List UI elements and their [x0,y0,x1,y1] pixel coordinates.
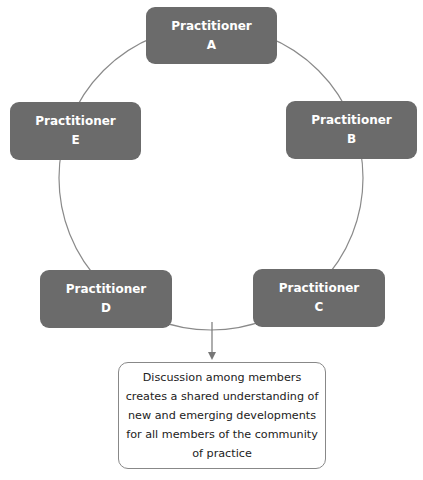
arrow-head-icon [208,352,216,360]
node-letter: C [315,298,324,317]
node-title: Practitioner [66,280,146,299]
node-title: Practitioner [35,112,115,131]
node-practitioner-c: Practitioner C [253,269,385,327]
node-letter: B [347,130,356,149]
outcome-box: Discussion among members creates a share… [118,362,326,469]
node-letter: E [71,131,79,150]
node-practitioner-e: Practitioner E [10,102,141,160]
node-practitioner-b: Practitioner B [286,101,417,159]
outcome-text: Discussion among members creates a share… [123,368,321,463]
node-letter: D [101,299,111,318]
node-title: Practitioner [171,17,251,36]
node-practitioner-d: Practitioner D [40,270,172,328]
node-letter: A [207,36,216,55]
node-title: Practitioner [279,279,359,298]
node-practitioner-a: Practitioner A [146,7,277,64]
node-title: Practitioner [311,111,391,130]
